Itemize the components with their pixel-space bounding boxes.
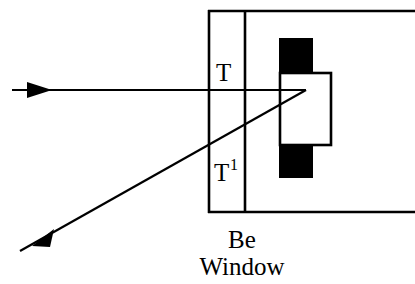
caption-window-line-1: Be: [228, 226, 256, 253]
outgoing-beam-arrowhead: [32, 229, 54, 247]
outgoing-beam-line: [20, 90, 306, 251]
incoming-beam-arrowhead: [27, 82, 52, 98]
detector-white-aperture: [280, 73, 331, 145]
caption-window-line-2: Window: [199, 253, 284, 280]
label-deflected-ray-base: T: [214, 159, 229, 186]
label-deflected-ray-superscript: 1: [230, 156, 238, 173]
label-transmitted-ray: T: [216, 59, 231, 86]
diagram-canvas: T T 1 Be Window: [0, 0, 415, 284]
beam-diagram-figure: T T 1 Be Window: [0, 0, 415, 284]
